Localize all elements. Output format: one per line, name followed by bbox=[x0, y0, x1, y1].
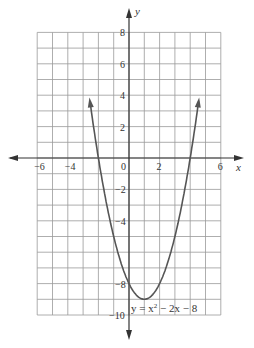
x-tick-label: −4 bbox=[65, 161, 76, 172]
x-tick-label: −6 bbox=[34, 161, 45, 172]
y-tick-label: 2 bbox=[120, 122, 125, 133]
x-tick-label: 2 bbox=[157, 161, 162, 172]
x-tick-label: 6 bbox=[218, 161, 223, 172]
y-tick-label: −4 bbox=[115, 216, 126, 227]
equation-annotation: y = x2 − 2x − 8 bbox=[131, 302, 198, 314]
y-tick-label: 8 bbox=[120, 27, 125, 38]
x-axis-label: x bbox=[235, 161, 241, 173]
y-tick-label: −2 bbox=[115, 184, 126, 195]
x-tick-label: 0 bbox=[121, 161, 126, 172]
y-axis-label: y bbox=[134, 5, 140, 17]
y-tick-label: −8 bbox=[115, 279, 126, 290]
y-tick-label: 6 bbox=[120, 59, 125, 70]
parabola-chart: −6−40268642−2−4−8−10 x y y = x2 − 2x − 8 bbox=[0, 0, 254, 348]
y-tick-label: 4 bbox=[120, 90, 125, 101]
y-tick-label: −10 bbox=[109, 310, 125, 321]
